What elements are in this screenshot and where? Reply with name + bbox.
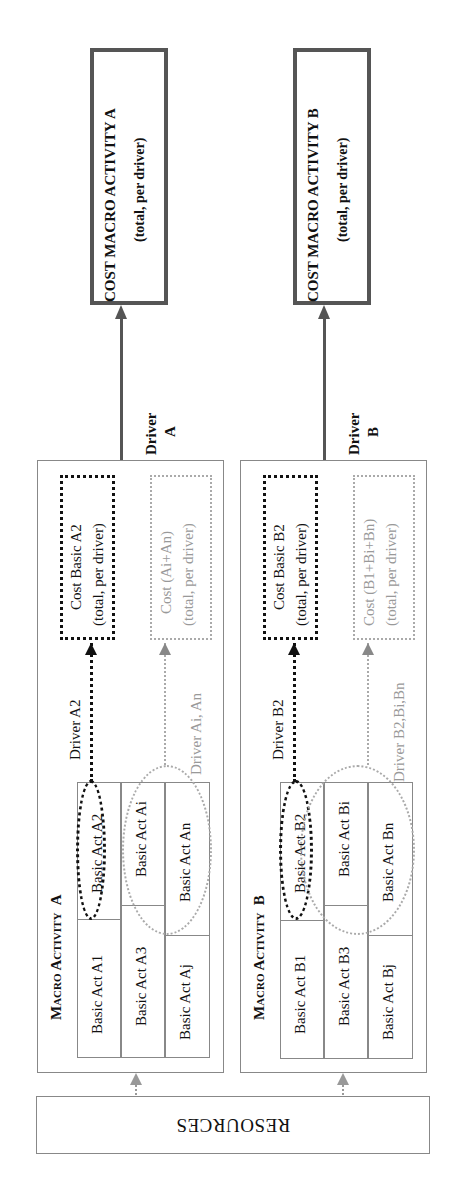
driver-a-letter: A (162, 426, 179, 437)
driver-b-label: Driver (346, 413, 363, 455)
cost-macro-b-subtitle: (total, per driver) (335, 138, 351, 242)
basic-act-a3-label: Basic Act A3 (133, 947, 150, 1026)
basic-act-aj-label: Basic Act Aj (177, 964, 194, 1040)
cost-macro-activity-a-box: COST MACRO ACTIVITY A (total, per driver… (90, 48, 168, 305)
basic-act-b1-label: Basic Act B1 (292, 955, 309, 1034)
driver-a2-label: Driver A2 (67, 700, 84, 760)
macro-activity-a-title: Macro Activity A (48, 894, 65, 1020)
driver-a-arrow-head-icon (115, 305, 127, 319)
cost-basic-a2-line1: Cost Basic A2 (68, 524, 85, 610)
driver-b2-arrow-shaft (293, 643, 296, 782)
driver-b-arrow-shaft (323, 318, 326, 460)
basic-act-b3-label: Basic Act B3 (336, 947, 353, 1026)
basic-act-bj-label: Basic Act Bj (380, 964, 397, 1040)
driver-b2-label: Driver B2 (270, 700, 287, 760)
driver-b2-bi-bn-label: Driver B2,Bi,Bn (391, 682, 408, 782)
primary-selection-ellipse-a (76, 780, 106, 920)
driver-a-label: Driver (143, 413, 160, 455)
cost-b1-bi-bn-line2: (total, per driver) (383, 523, 400, 626)
resources-label: RESOURCES (176, 1114, 290, 1136)
cost-macro-activity-b-box: COST MACRO ACTIVITY B (total, per driver… (293, 48, 371, 305)
cost-basic-b2-line2: (total, per driver) (293, 523, 310, 626)
driver-b2-arrow-head-icon (288, 643, 300, 655)
driver-ai-an-label: Driver Ai, An (188, 693, 205, 775)
cost-basic-a2-line2: (total, per driver) (90, 523, 107, 626)
cost-macro-b-title: COST MACRO ACTIVITY B (305, 108, 322, 302)
resources-to-macro-a-arrow-head-icon (130, 1073, 142, 1085)
driver-a-arrow-shaft (120, 318, 123, 460)
cost-macro-a-title: COST MACRO ACTIVITY A (102, 108, 119, 302)
driver-b-letter: B (365, 427, 382, 437)
secondary-selection-ellipse-a (122, 765, 212, 935)
cost-basic-b2-line1: Cost Basic B2 (271, 524, 288, 610)
driver-b-arrow-head-icon (318, 305, 330, 319)
resources-to-macro-b-arrow-head-icon (337, 1073, 349, 1085)
macro-activity-b-title: Macro Activity B (251, 895, 268, 1020)
driver-a2-arrow-shaft (90, 643, 93, 782)
cost-b1-bi-bn-line1: Cost (B1+Bi+Bn) (361, 519, 378, 626)
driver-ai-an-arrow-shaft (164, 643, 166, 765)
secondary-selection-ellipse-b (300, 765, 415, 935)
basic-act-a1-label: Basic Act A1 (89, 955, 106, 1034)
cost-ai-an-line1: Cost (Ai+An) (158, 531, 175, 614)
driver-b2-bi-bn-arrow-head-icon (362, 643, 374, 655)
driver-a2-arrow-head-icon (85, 643, 97, 655)
resources-box: RESOURCES (36, 1096, 430, 1154)
driver-b2-bi-bn-arrow-shaft (367, 643, 369, 765)
cost-ai-an-line2: (total, per driver) (180, 523, 197, 626)
cost-macro-a-subtitle: (total, per driver) (132, 138, 148, 242)
driver-ai-an-arrow-head-icon (159, 643, 171, 655)
